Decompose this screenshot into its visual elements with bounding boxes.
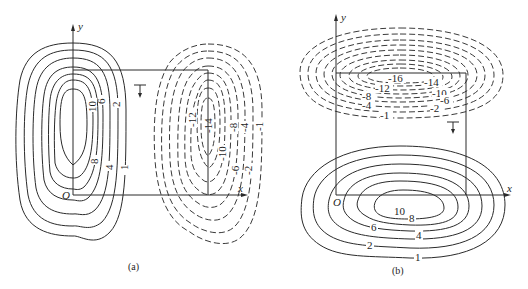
y-axis-label: y <box>77 20 83 32</box>
contour-label: -12 <box>375 82 390 94</box>
contour-label: -1 <box>253 122 265 131</box>
panel-a-positive-contours <box>16 43 126 240</box>
contour-label: -10 <box>216 146 228 161</box>
contour-label: -6 <box>229 165 241 175</box>
contour-label: 8 <box>409 212 415 224</box>
contour-label: -16 <box>388 72 403 84</box>
section-marker-icon <box>134 85 146 98</box>
panel-a-caption: (a) <box>128 261 139 273</box>
contour-label: 6 <box>371 221 377 233</box>
contour-label: 2 <box>367 239 373 251</box>
panel-b-caption: (b) <box>392 265 404 277</box>
panel-b-positive-contours <box>301 146 505 258</box>
contour-label: 8 <box>88 158 100 164</box>
contour-label: -2 <box>242 166 254 175</box>
panel-a: 10 6 2 8 4 1 -12 -14 <box>16 20 265 273</box>
contour-label: -4 <box>238 122 250 132</box>
panel-b-positive-labels: 10 8 6 4 2 1 <box>366 205 423 263</box>
x-axis-label: x <box>237 182 243 194</box>
contour-label: 1 <box>415 251 421 263</box>
contour-label: -4 <box>362 99 372 111</box>
origin-label: O <box>62 189 70 201</box>
contour-diagram: 10 6 2 8 4 1 -12 -14 <box>0 0 528 289</box>
contour-label: 1 <box>118 165 130 171</box>
panel-b-negative-labels: -16 -14 -12 -10 -8 -6 -4 -2 -1 <box>362 72 453 121</box>
contour-label: 4 <box>416 229 422 241</box>
x-axis-label: x <box>506 182 512 194</box>
origin-label: O <box>333 196 341 208</box>
contour-label: 2 <box>110 102 122 108</box>
contour-label: 6 <box>95 98 107 104</box>
contour-label: -1 <box>380 109 389 121</box>
section-marker-icon <box>447 122 459 134</box>
contour-label: -12 <box>186 112 198 127</box>
contour-label: -2 <box>430 102 439 114</box>
y-axis-label: y <box>340 11 346 23</box>
contour-label: 10 <box>394 205 406 217</box>
contour-label: 4 <box>103 164 115 170</box>
panel-b: -16 -14 -12 -10 -8 -6 -4 -2 -1 <box>300 11 512 277</box>
